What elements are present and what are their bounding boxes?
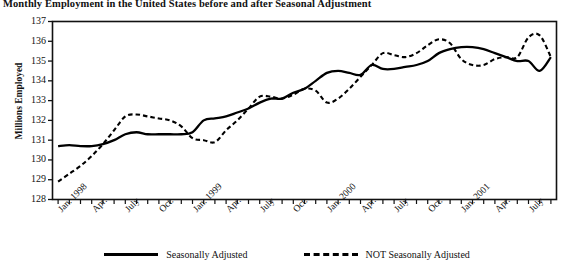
chart-legend: Seasonally AdjustedNOT Seasonally Adjust…: [0, 246, 574, 262]
legend-label: Seasonally Adjusted: [166, 249, 247, 260]
legend-entry: NOT Seasonally Adjusted: [304, 249, 470, 260]
legend-entry: Seasonally Adjusted: [104, 249, 247, 260]
legend-dashed-line-icon: [304, 253, 358, 256]
legend-solid-line-icon: [104, 253, 158, 256]
legend-label: NOT Seasonally Adjusted: [366, 249, 470, 260]
series-line-seasonally-adjusted: [58, 47, 551, 146]
employment-line-chart: Monthly Employment in the United States …: [0, 0, 574, 264]
x-axis-tick-labels: Jan. 1998Apr.JulyOct.Jan. 1999Apr.JulyOc…: [0, 0, 574, 60]
